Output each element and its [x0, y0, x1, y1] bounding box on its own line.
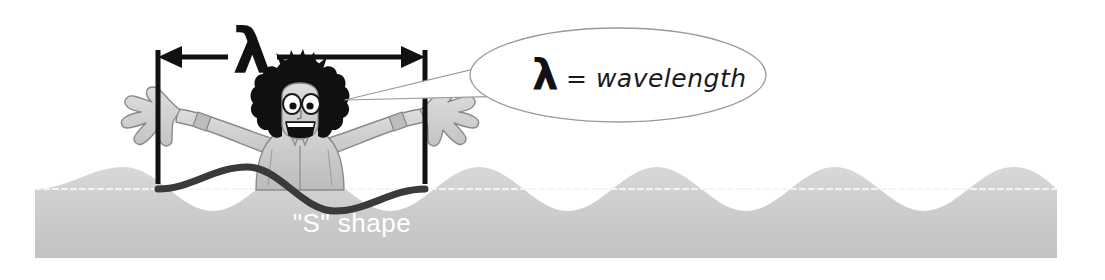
teeth — [287, 123, 314, 127]
left-pupil — [289, 102, 296, 109]
s-shape-label: "S" shape — [293, 208, 411, 238]
arrow-head-left-icon — [158, 46, 182, 68]
wavelength-figure: λ λ = wavelength "S" shape — [0, 0, 1105, 280]
right-pupil — [306, 102, 313, 109]
lambda-symbol-large: λ — [232, 14, 271, 87]
arrow-head-right-icon — [401, 46, 425, 68]
left-hand — [121, 87, 180, 146]
callout-bubble: λ = wavelength — [345, 28, 766, 122]
figure-canvas: λ λ = wavelength "S" shape — [0, 0, 1105, 280]
callout-equals-text: = wavelength — [566, 64, 747, 93]
callout-lambda-symbol: λ — [532, 51, 559, 100]
